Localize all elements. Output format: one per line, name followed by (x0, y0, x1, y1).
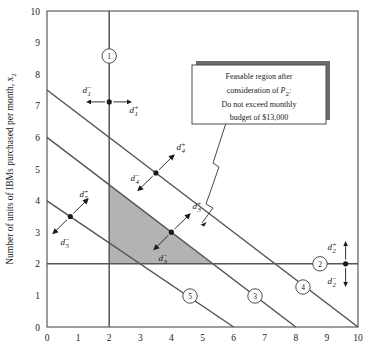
y-tick-3: 3 (35, 228, 40, 238)
deviation-dot-2 (343, 261, 348, 266)
y-tick-4: 4 (35, 196, 40, 206)
x-tick-7: 7 (262, 333, 267, 343)
callout-line-4: budget of $13,000 (230, 113, 288, 122)
badge-2: 2 (313, 257, 327, 271)
deviation-dot-1 (107, 99, 112, 104)
y-tick-7: 7 (35, 101, 40, 111)
x-tick-8: 8 (293, 333, 298, 343)
badge-5: 5 (183, 289, 197, 303)
badge-1-label: 1 (107, 52, 111, 61)
callout-line-3: Do not exceed monthly (222, 100, 297, 109)
badge-3: 3 (248, 289, 262, 303)
callout-line-1: Feasable region after (225, 72, 292, 81)
y-tick-9: 9 (35, 38, 40, 48)
badge-2-label: 2 (318, 260, 322, 269)
y-tick-8: 8 (35, 70, 40, 80)
x-tick-10: 10 (353, 333, 363, 343)
badge-1: 1 (102, 49, 116, 63)
y-axis-title-text: Number of units of IBMs purchased per mo… (5, 76, 15, 264)
x-tick-6: 6 (231, 333, 236, 343)
badge-3-label: 3 (253, 292, 257, 301)
y-tick-10: 10 (31, 7, 41, 17)
badge-4-label: 4 (301, 283, 305, 292)
x-tick-9: 9 (325, 333, 330, 343)
y-tick-2: 2 (35, 259, 40, 269)
y-axis-title: Number of units of IBMs purchased per mo… (5, 73, 18, 265)
x-axis-ticks: 0 1 2 3 4 5 6 7 8 9 10 (45, 333, 363, 343)
x-tick-5: 5 (200, 333, 205, 343)
deviation-dot-4 (153, 170, 158, 175)
chart-root: 0 1 2 3 4 5 6 7 8 9 10 0 1 2 3 4 5 6 7 8… (0, 0, 373, 358)
goal-programming-graph: 0 1 2 3 4 5 6 7 8 9 10 0 1 2 3 4 5 6 7 8… (0, 0, 373, 358)
x-tick-2: 2 (107, 333, 112, 343)
y-axis-title-subscript: 2 (10, 73, 18, 77)
badge-4: 4 (296, 280, 310, 294)
svg-text:Number of units of IBMs purcha: Number of units of IBMs purchased per mo… (5, 73, 18, 265)
x-tick-3: 3 (138, 333, 143, 343)
y-tick-6: 6 (35, 133, 40, 143)
y-tick-5: 5 (35, 165, 40, 175)
badge-5-label: 5 (188, 292, 192, 301)
plot-frame (47, 11, 358, 327)
deviation-dot-5 (68, 214, 73, 219)
x-tick-1: 1 (76, 333, 81, 343)
y-tick-0: 0 (35, 323, 40, 333)
x-tick-0: 0 (45, 333, 50, 343)
y-axis-ticks: 0 1 2 3 4 5 6 7 8 9 10 (31, 7, 41, 333)
deviation-dot-3 (169, 230, 174, 235)
x-tick-4: 4 (169, 333, 174, 343)
y-tick-1: 1 (35, 291, 40, 301)
